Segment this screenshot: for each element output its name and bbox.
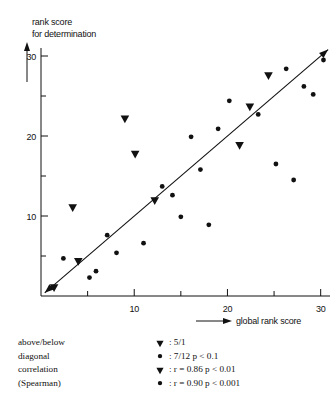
data-point-circle [206,222,211,227]
legend-left-line: diagonal [18,351,50,361]
data-point-circle [160,184,165,189]
data-point-triangle [68,204,77,212]
diagonal-reference-line [45,50,328,293]
y-axis-label-line2: for determination [32,29,96,39]
data-point-circle [114,250,119,255]
x-tick-label: 30 [316,304,326,314]
data-point-circle [141,241,146,246]
legend-right-text: : r = 0.86 p < 0.01 [169,364,236,374]
legend-circle-icon [158,381,162,385]
y-tick-label: 20 [27,132,37,142]
data-point-circle [87,275,92,280]
y-axis-label-line1: rank score [32,17,72,27]
data-point-circle [198,167,203,172]
diagonal-line [45,50,328,293]
data-point-circle [256,112,261,117]
x-axis-label-group: global rank score [196,316,301,326]
data-point-circle [284,66,289,71]
legend-triangle-icon [156,368,163,374]
data-point-triangle [121,116,130,124]
legend-left-labels: above/belowdiagonalcorrelation(Spearman) [18,337,65,388]
y-axis-tick-labels: 102030 [27,52,37,222]
legend-left-line: above/below [18,337,65,347]
y-tick-label: 10 [27,212,37,222]
data-point-circle [189,134,194,139]
chart-container: rank score for determination 102030 1020… [0,0,336,405]
legend-right-entries: : 5/1: 7/12 p < 0.1: r = 0.86 p < 0.01: … [156,337,240,388]
y-tick-label: 30 [27,52,37,62]
data-point-triangle [246,104,255,112]
data-point-circle [216,126,221,131]
data-point-circle [61,256,66,261]
legend-right-text: : r = 0.90 p < 0.001 [169,378,241,388]
data-point-circle [274,162,279,167]
data-point-circle [105,233,110,238]
legend-circle-icon [158,354,162,358]
x-axis-label: global rank score [236,316,301,326]
y-axis-arrow [24,42,30,82]
data-point-circle [227,98,232,103]
data-point-circle [291,178,296,183]
x-tick-label: 20 [223,304,233,314]
data-point-circle [321,58,326,63]
y-axis-ticks [41,56,48,256]
data-point-circle [170,193,175,198]
legend-right-text: : 5/1 [169,337,186,347]
data-point-triangle [235,142,244,150]
x-tick-label: 10 [130,304,140,314]
data-point-circle [301,84,306,89]
legend-left-line: (Spearman) [18,378,61,388]
legend-triangle-icon [156,341,163,347]
data-point-triangle [131,151,140,159]
data-point-triangle [264,72,273,80]
scatter-chart: rank score for determination 102030 1020… [0,0,336,405]
x-axis-ticks [88,289,321,296]
circle-data-points [61,58,326,280]
x-axis-tick-labels: 102030 [130,304,326,314]
legend-left-line: correlation [18,364,58,374]
data-point-circle [94,269,99,274]
data-point-circle [311,92,316,97]
legend-right-text: : 7/12 p < 0.1 [169,351,219,361]
data-point-circle [178,214,183,219]
